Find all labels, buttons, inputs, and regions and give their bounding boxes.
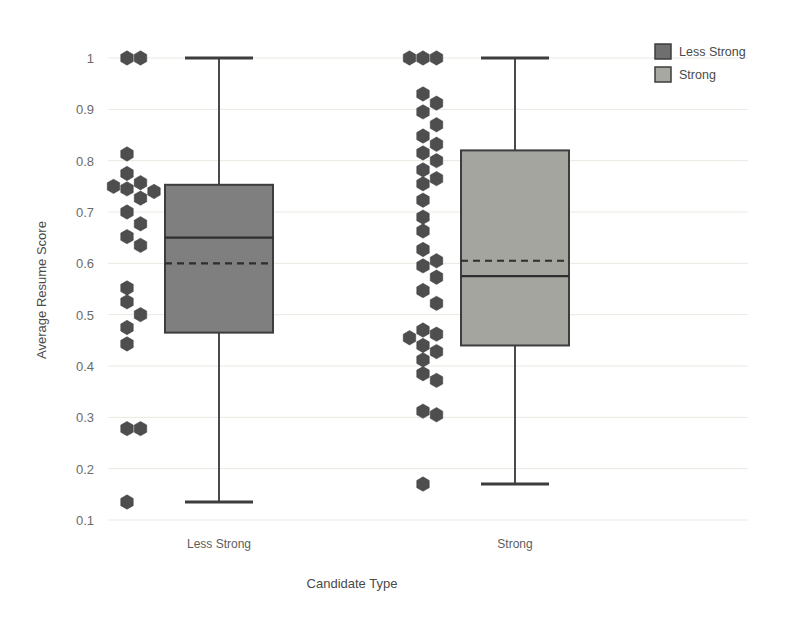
y-tick-label-1: 1 (87, 51, 94, 66)
box-body (165, 185, 273, 333)
y-tick-label-0.5: 0.5 (76, 308, 94, 323)
chart-container: 0.10.20.30.40.50.60.70.80.91 Less Strong… (0, 0, 785, 617)
y-tick-label-0.2: 0.2 (76, 462, 94, 477)
x-category-label-less-strong: Less Strong (187, 537, 251, 551)
boxplot-svg: 0.10.20.30.40.50.60.70.80.91 Less Strong… (0, 0, 785, 617)
legend-swatch-less-strong (655, 44, 671, 59)
x-category-label-strong: Strong (497, 537, 532, 551)
legend-swatch-strong (655, 67, 671, 82)
y-tick-label-0.7: 0.7 (76, 205, 94, 220)
chart-background (0, 0, 785, 617)
legend-label-less-strong: Less Strong (679, 45, 746, 59)
y-tick-label-0.6: 0.6 (76, 256, 94, 271)
y-tick-label-0.1: 0.1 (76, 513, 94, 528)
y-axis-title: Average Resume Score (34, 221, 49, 359)
y-tick-label-0.4: 0.4 (76, 359, 94, 374)
x-axis-title: Candidate Type (307, 576, 398, 591)
y-tick-label-0.3: 0.3 (76, 410, 94, 425)
y-tick-label-0.8: 0.8 (76, 154, 94, 169)
y-tick-label-0.9: 0.9 (76, 102, 94, 117)
legend-label-strong: Strong (679, 68, 716, 82)
box-body (461, 150, 569, 345)
